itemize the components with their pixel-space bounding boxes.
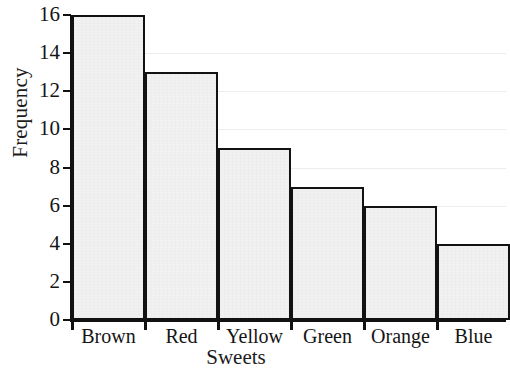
plot-area [72, 15, 506, 320]
y-tick-mark [63, 205, 71, 207]
y-tick-mark [63, 90, 71, 92]
y-tick-label: 8 [24, 155, 60, 180]
y-tick-mark [63, 243, 71, 245]
y-tick-mark [63, 281, 71, 283]
y-axis-line [70, 15, 73, 322]
bar [437, 244, 510, 320]
y-tick-label: 14 [24, 40, 60, 65]
y-tick-label: 0 [24, 307, 60, 332]
x-axis-line [70, 319, 506, 322]
bar [218, 148, 291, 320]
bar [364, 206, 437, 320]
y-tick-mark [63, 128, 71, 130]
y-tick-label: 6 [24, 193, 60, 218]
y-tick-label: 4 [24, 231, 60, 256]
y-tick-label: 16 [24, 2, 60, 27]
bar [291, 187, 364, 320]
bar [72, 15, 145, 320]
y-tick-mark [63, 167, 71, 169]
y-tick-mark [63, 52, 71, 54]
y-tick-label: 10 [24, 116, 60, 141]
x-axis-title: Sweets [0, 345, 472, 370]
bar [145, 72, 218, 320]
y-tick-label: 2 [24, 269, 60, 294]
y-tick-label: 12 [24, 78, 60, 103]
y-tick-mark [63, 14, 71, 16]
y-tick-mark [63, 319, 71, 321]
